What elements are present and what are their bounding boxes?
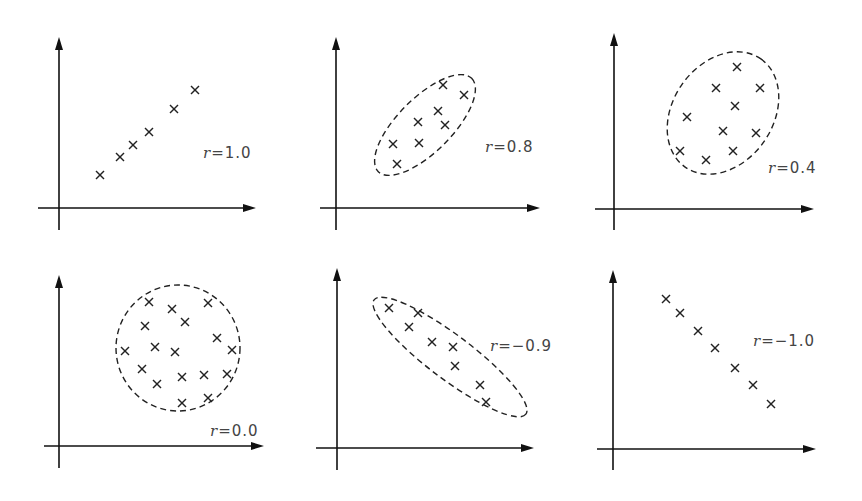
cross-marker-icon bbox=[181, 318, 189, 326]
scatter-panel: r=0.0 bbox=[44, 275, 264, 468]
cross-marker-icon bbox=[153, 380, 161, 388]
cross-marker-icon bbox=[702, 156, 710, 164]
y-arrow-icon bbox=[55, 275, 63, 288]
cross-marker-icon bbox=[141, 322, 149, 330]
cross-marker-icon bbox=[731, 364, 739, 372]
cross-marker-icon bbox=[129, 141, 137, 149]
x-arrow-icon bbox=[803, 445, 816, 453]
cross-marker-icon bbox=[145, 298, 153, 306]
cross-marker-icon bbox=[204, 299, 212, 307]
cross-marker-icon bbox=[749, 381, 757, 389]
cross-marker-icon bbox=[405, 323, 413, 331]
y-arrow-icon bbox=[610, 33, 618, 46]
cross-marker-icon bbox=[138, 365, 146, 373]
scatter-panel: r=−0.9 bbox=[316, 268, 552, 470]
cross-marker-icon bbox=[428, 338, 436, 346]
cross-marker-icon bbox=[434, 107, 442, 115]
cross-marker-icon bbox=[200, 371, 208, 379]
scatter-panel: r=0.4 bbox=[595, 30, 817, 230]
cross-marker-icon bbox=[676, 309, 684, 317]
dashed-envelope bbox=[116, 285, 240, 411]
cross-marker-icon bbox=[719, 127, 727, 135]
cross-marker-icon bbox=[116, 153, 124, 161]
cross-marker-icon bbox=[389, 140, 397, 148]
correlation-figure: r=1.0r=0.8r=0.4r=0.0r=−0.9r=−1.0 bbox=[0, 0, 862, 501]
cross-marker-icon bbox=[415, 139, 423, 147]
cross-marker-icon bbox=[662, 295, 670, 303]
x-arrow-icon bbox=[243, 204, 256, 212]
x-arrow-icon bbox=[521, 444, 534, 452]
cross-marker-icon bbox=[121, 347, 129, 355]
cross-marker-icon bbox=[451, 362, 459, 370]
correlation-label: r=−0.9 bbox=[490, 337, 552, 355]
cross-marker-icon bbox=[213, 334, 221, 342]
cross-marker-icon bbox=[171, 348, 179, 356]
cross-marker-icon bbox=[385, 304, 393, 312]
x-arrow-icon bbox=[251, 442, 264, 450]
cross-marker-icon bbox=[178, 399, 186, 407]
correlation-label: r=−1.0 bbox=[753, 332, 815, 350]
cross-marker-icon bbox=[145, 128, 153, 136]
x-arrow-icon bbox=[527, 204, 540, 212]
cross-marker-icon bbox=[733, 63, 741, 71]
cross-marker-icon bbox=[178, 373, 186, 381]
scatter-panel: r=−1.0 bbox=[597, 270, 816, 470]
cross-marker-icon bbox=[191, 86, 199, 94]
cross-marker-icon bbox=[151, 343, 159, 351]
cross-marker-icon bbox=[204, 394, 212, 402]
cross-marker-icon bbox=[228, 346, 236, 354]
y-arrow-icon bbox=[55, 37, 63, 50]
cross-marker-icon bbox=[711, 344, 719, 352]
correlation-label: r=0.8 bbox=[485, 138, 534, 156]
cross-marker-icon bbox=[414, 118, 422, 126]
cross-marker-icon bbox=[414, 309, 422, 317]
correlation-label: r=1.0 bbox=[203, 144, 252, 162]
cross-marker-icon bbox=[767, 400, 775, 408]
correlation-label: r=0.4 bbox=[768, 159, 817, 177]
cross-marker-icon bbox=[439, 81, 447, 89]
cross-marker-icon bbox=[393, 160, 401, 168]
y-arrow-icon bbox=[332, 37, 340, 50]
x-arrow-icon bbox=[801, 205, 814, 213]
scatter-panel: r=0.8 bbox=[320, 37, 540, 230]
correlation-label: r=0.0 bbox=[210, 422, 259, 440]
y-arrow-icon bbox=[333, 268, 341, 281]
cross-marker-icon bbox=[449, 343, 457, 351]
cross-marker-icon bbox=[168, 305, 176, 313]
cross-marker-icon bbox=[683, 113, 691, 121]
cross-marker-icon bbox=[729, 147, 737, 155]
cross-marker-icon bbox=[482, 398, 490, 406]
cross-marker-icon bbox=[96, 171, 104, 179]
dashed-envelope bbox=[361, 282, 539, 431]
dashed-envelope bbox=[359, 59, 491, 191]
cross-marker-icon bbox=[223, 370, 231, 378]
cross-marker-icon bbox=[752, 129, 760, 137]
cross-marker-icon bbox=[476, 381, 484, 389]
y-arrow-icon bbox=[609, 270, 617, 283]
cross-marker-icon bbox=[712, 84, 720, 92]
scatter-panel: r=1.0 bbox=[38, 37, 256, 230]
cross-marker-icon bbox=[756, 84, 764, 92]
cross-marker-icon bbox=[460, 91, 468, 99]
cross-marker-icon bbox=[441, 121, 449, 129]
cross-marker-icon bbox=[694, 327, 702, 335]
cross-marker-icon bbox=[676, 147, 684, 155]
cross-marker-icon bbox=[731, 102, 739, 110]
cross-marker-icon bbox=[170, 105, 178, 113]
